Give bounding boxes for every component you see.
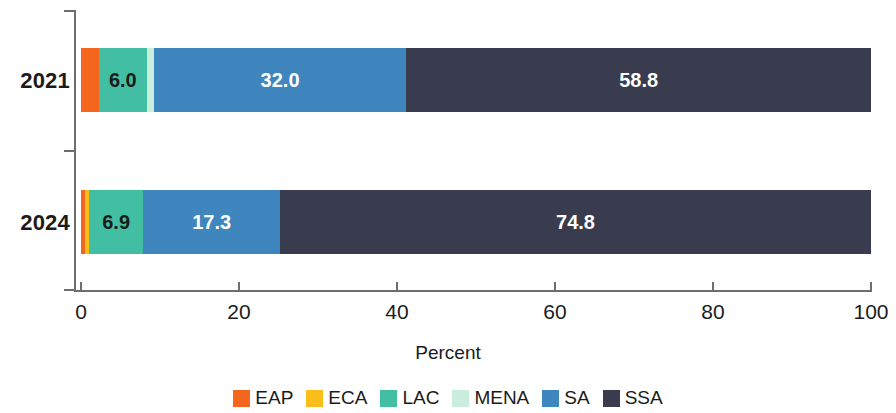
legend-label: EAP [255,387,293,409]
legend-item-lac[interactable]: LAC [380,387,439,409]
x-axis-tick-mark [238,282,240,292]
y-axis-line [74,10,76,290]
legend-item-mena[interactable]: MENA [452,387,529,409]
x-axis-tick-label: 0 [41,300,121,324]
category-label-2024: 2024 [0,210,70,236]
legend-swatch-icon [380,390,397,407]
y-axis-tick-top [64,10,74,12]
legend-item-sa[interactable]: SA [542,387,589,409]
bar-2024[interactable]: 6.917.374.8 [81,190,871,254]
legend-swatch-icon [542,390,559,407]
bar-segment-ssa[interactable]: 74.8 [280,190,871,254]
legend-label: ECA [328,387,367,409]
legend-item-eca[interactable]: ECA [306,387,367,409]
bar-segment-value-label: 58.8 [619,69,658,92]
legend-label: SSA [625,387,663,409]
stacked-bar-chart: 2021 2024 6.032.058.8 6.917.374.8 020406… [0,0,896,413]
legend-swatch-icon [233,390,250,407]
x-axis-tick-mark [870,282,872,292]
legend-swatch-icon [306,390,323,407]
x-axis-line [74,290,872,292]
bar-segment-eap[interactable] [81,48,99,112]
bar-segment-value-label: 32.0 [261,69,300,92]
bar-segment-value-label: 6.0 [109,69,137,92]
bar-segment-value-label: 17.3 [192,211,231,234]
legend-label: MENA [474,387,529,409]
bar-segment-value-label: 74.8 [556,211,595,234]
x-axis-tick-label: 60 [515,300,595,324]
x-axis-tick-mark [396,282,398,292]
bar-segment-mena[interactable] [147,48,154,112]
bar-segment-value-label: 6.9 [102,211,130,234]
bar-2021[interactable]: 6.032.058.8 [81,48,871,112]
legend-swatch-icon [452,390,469,407]
x-axis-tick-mark [554,282,556,292]
y-axis-tick-bottom [64,289,74,291]
bar-segment-lac[interactable]: 6.9 [89,190,144,254]
category-label-2021: 2021 [0,68,70,94]
bar-segment-sa[interactable]: 17.3 [143,190,280,254]
x-axis-tick-label: 20 [199,300,279,324]
x-axis-tick-label: 40 [357,300,437,324]
legend-item-ssa[interactable]: SSA [603,387,663,409]
bar-segment-ssa[interactable]: 58.8 [406,48,871,112]
y-axis-tick-middle [64,150,74,152]
x-axis-tick-mark [80,282,82,292]
x-axis-title: Percent [0,342,896,364]
x-axis-tick-label: 100 [831,300,896,324]
bar-segment-lac[interactable]: 6.0 [99,48,146,112]
x-axis-tick-label: 80 [673,300,753,324]
legend-label: LAC [402,387,439,409]
x-axis-tick-mark [712,282,714,292]
chart-legend: EAPECALACMENASASSA [0,387,896,409]
legend-item-eap[interactable]: EAP [233,387,293,409]
legend-swatch-icon [603,390,620,407]
legend-label: SA [564,387,589,409]
bar-segment-sa[interactable]: 32.0 [154,48,407,112]
